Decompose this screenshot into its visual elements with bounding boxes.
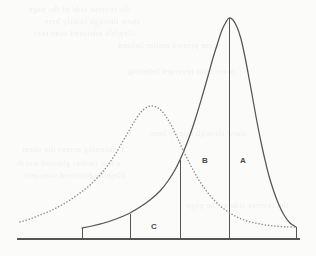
region-label-b: B: [202, 156, 208, 165]
dotted-curve: [20, 106, 296, 227]
divider-lines-group: [82, 18, 296, 239]
distribution-plot: [0, 0, 316, 256]
region-label-a: A: [240, 156, 246, 165]
region-label-c: C: [151, 222, 157, 231]
curves-group: [20, 18, 296, 228]
solid-curve: [82, 18, 296, 228]
figure-root: the reverse side of the page show throug…: [0, 0, 316, 256]
